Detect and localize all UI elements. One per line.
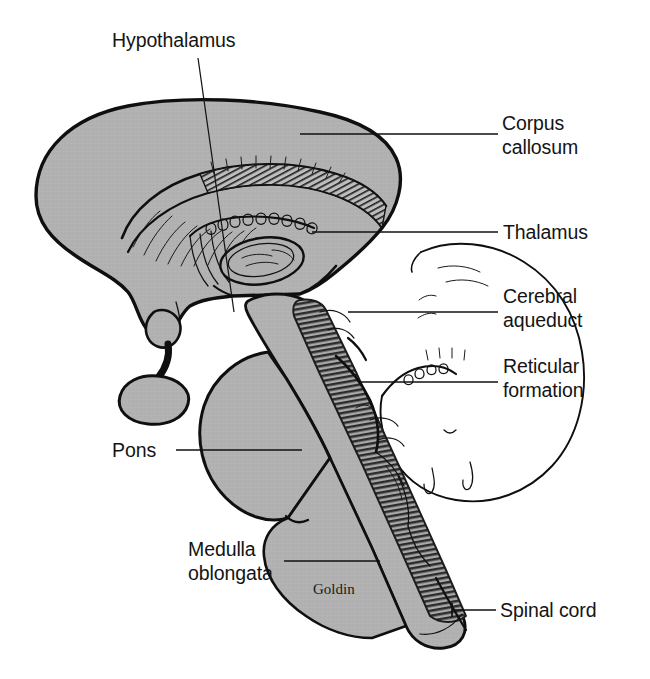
brain-sagittal-section-illustration: Hypothalamus Corpus callosum Thalamus Ce… <box>0 0 650 679</box>
optic-chiasm <box>146 310 181 348</box>
label-corpus-callosum-line1: Corpus <box>502 112 565 134</box>
artist-signature: Goldin <box>313 581 355 597</box>
label-hypothalamus: Hypothalamus <box>112 29 236 51</box>
label-corpus-callosum-line2: callosum <box>502 136 578 158</box>
label-thalamus: Thalamus <box>503 221 588 243</box>
label-spinal-cord: Spinal cord <box>500 599 596 621</box>
label-reticular-formation-line1: Reticular <box>503 355 580 377</box>
label-cerebral-aqueduct-line2: aqueduct <box>503 309 583 331</box>
label-medulla-oblongata-line1: Medulla <box>188 538 256 560</box>
pituitary-gland <box>119 376 188 425</box>
label-reticular-formation-line2: formation <box>503 379 583 401</box>
label-cerebral-aqueduct-line1: Cerebral <box>503 285 577 307</box>
label-medulla-oblongata-line2: oblongata <box>188 562 273 584</box>
brain-diagram-figure: Hypothalamus Corpus callosum Thalamus Ce… <box>0 0 650 679</box>
label-pons: Pons <box>112 439 156 461</box>
